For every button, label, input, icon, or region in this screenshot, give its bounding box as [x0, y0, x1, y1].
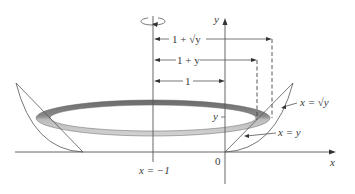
washer-diagram: x y 0 x = −1 1 + √y 1 + y 1: [0, 0, 355, 194]
origin-label: 0: [215, 155, 221, 167]
dimension-axis-distance: 1: [154, 75, 225, 87]
svg-text:x = y: x = y: [277, 126, 301, 138]
rotation-axis-label: x = −1: [138, 164, 170, 176]
x-axis-label: x: [329, 156, 335, 168]
svg-text:x = √y: x = √y: [299, 96, 329, 108]
region-right: [225, 83, 293, 152]
x-axis: x: [15, 150, 336, 169]
dimension-outer-radius: 1 + √y: [154, 33, 272, 45]
axis-distance-label: 1: [185, 75, 191, 87]
inner-radius-label: 1 + y: [177, 54, 200, 66]
region-left: [16, 83, 83, 152]
height-label: y: [212, 110, 218, 122]
outer-radius-label: 1 + √y: [172, 33, 201, 45]
y-axis-label: y: [213, 13, 219, 25]
dimension-inner-radius: 1 + y: [154, 54, 257, 66]
height-marker: y: [212, 110, 225, 122]
